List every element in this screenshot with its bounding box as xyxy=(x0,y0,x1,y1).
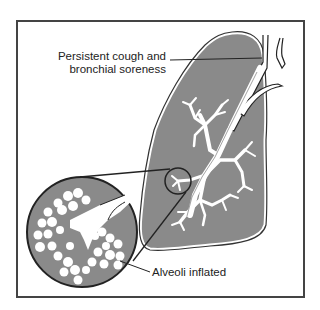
alveoli-magnified xyxy=(27,177,137,287)
bronchi-label: Persistent cough and bronchial soreness xyxy=(58,50,166,76)
bronchi-label-line2: bronchial soreness xyxy=(58,63,166,76)
lung-illustration xyxy=(0,0,320,310)
bronchi-label-line1: Persistent cough and xyxy=(58,50,166,63)
alveoli-label: Alveoli inflated xyxy=(152,266,226,279)
